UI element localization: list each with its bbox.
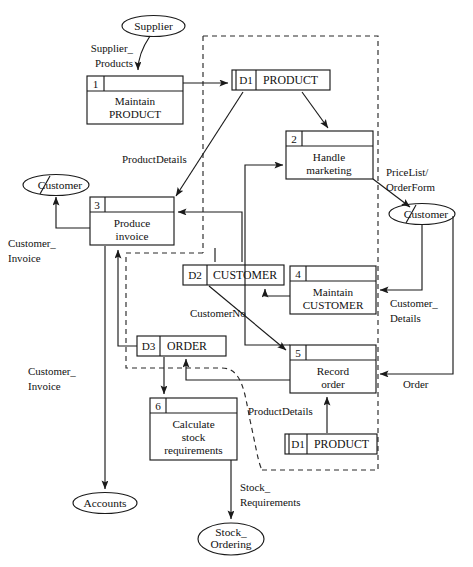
entity-accounts-label: Accounts: [83, 497, 127, 509]
datastore-d1-top-ref: D1: [239, 74, 253, 86]
dfd-svg: Supplier Customer Customer Accounts Stoc…: [0, 0, 473, 567]
dfd-canvas: Supplier Customer Customer Accounts Stoc…: [0, 0, 473, 567]
process-6-line2: stock: [182, 431, 206, 443]
arrow-customer-details: [380, 225, 422, 290]
label-stock-requirements-line2: Requirements: [240, 496, 301, 508]
arrow-d2-to-produce-invoice: [178, 212, 242, 248]
entity-accounts[interactable]: Accounts: [73, 493, 137, 514]
process-4-line2: CUSTOMER: [303, 299, 364, 311]
label-productdetails-top: ProductDetails: [122, 153, 187, 165]
entity-customer-right[interactable]: Customer: [389, 204, 455, 225]
datastore-d1-bottom-label: PRODUCT: [314, 437, 370, 451]
entity-customer-left[interactable]: Customer: [23, 175, 89, 196]
arrow-productdetails-to-produce-invoice: [176, 92, 243, 196]
label-pricelist-orderform-line2: OrderForm: [386, 181, 436, 193]
process-4-line1: Maintain: [313, 286, 354, 298]
arrow-order: [380, 216, 453, 374]
process-5-line1: Record: [317, 365, 350, 377]
datastore-d1-bottom-ref: D1: [291, 438, 305, 450]
entity-customer-left-label: Customer: [38, 179, 83, 191]
label-pricelist-orderform-line1: PriceList/: [386, 166, 429, 178]
process-6-line3: requirements: [164, 444, 222, 456]
label-customer-invoice-bottom-line1: Customer_: [28, 365, 76, 377]
arrow-record-order-to-handle-marketing: [245, 165, 290, 345]
process-6-line1: Calculate: [172, 418, 214, 430]
process-5[interactable]: 5 Record order: [290, 345, 376, 393]
process-3-line1: Produce: [114, 217, 151, 229]
entity-customer-right-label: Customer: [404, 208, 449, 220]
process-4[interactable]: 4 Maintain CUSTOMER: [290, 266, 376, 314]
entity-stock-ordering[interactable]: Stock_ Ordering: [198, 523, 264, 555]
arrow-d3-to-produce-invoice: [118, 250, 137, 346]
entity-stock-ordering-label-line2: Ordering: [210, 538, 251, 550]
process-6-number: 6: [155, 400, 161, 412]
label-customer-details-line2: Details: [390, 312, 421, 324]
label-customer-invoice-top-line2: Invoice: [8, 252, 41, 264]
datastore-d3-label: ORDER: [167, 339, 207, 353]
process-3-line2: invoice: [116, 230, 149, 242]
arrow-supplier-products: [138, 36, 150, 70]
label-supplier-products-line1: Supplier_: [91, 42, 134, 54]
datastore-d2-ref: D2: [188, 269, 202, 281]
process-5-line2: order: [321, 378, 345, 390]
entity-supplier-label: Supplier: [134, 20, 173, 32]
datastore-d1-bottom[interactable]: D1 PRODUCT: [285, 434, 377, 454]
datastore-d1-top-label: PRODUCT: [263, 73, 319, 87]
process-2-line2: marketing: [306, 164, 352, 176]
label-order: Order: [403, 378, 429, 390]
entity-stock-ordering-label-line1: Stock_: [215, 526, 247, 538]
process-1-line2: PRODUCT: [109, 108, 161, 120]
label-stock-requirements-line1: Stock_: [240, 481, 271, 493]
datastore-d3[interactable]: D3 ORDER: [137, 336, 226, 356]
label-customer-details-line1: Customer_: [390, 297, 438, 309]
arrow-customer-invoice-top: [56, 197, 90, 228]
label-customerno: CustomerNo: [190, 307, 246, 319]
process-3-number: 3: [94, 199, 100, 211]
arrow-d1-to-handle-marketing: [302, 92, 328, 128]
datastore-d3-ref: D3: [142, 340, 156, 352]
label-productdetails-bottom: ProductDetails: [248, 405, 313, 417]
datastore-d1-top[interactable]: D1 PRODUCT: [232, 70, 330, 90]
label-customer-invoice-top-line1: Customer_: [8, 237, 56, 249]
process-1-line1: Maintain: [115, 95, 156, 107]
entity-supplier[interactable]: Supplier: [122, 16, 185, 37]
process-1[interactable]: 1 Maintain PRODUCT: [87, 76, 183, 124]
process-5-number: 5: [295, 347, 301, 359]
process-3[interactable]: 3 Produce invoice: [90, 197, 174, 245]
process-1-number: 1: [93, 78, 99, 90]
process-4-number: 4: [295, 268, 301, 280]
datastore-d2[interactable]: D2 CUSTOMER: [183, 265, 284, 285]
process-2-number: 2: [291, 133, 297, 145]
label-supplier-products-line2: Products: [95, 57, 133, 69]
process-2-line1: Handle: [313, 151, 345, 163]
process-6[interactable]: 6 Calculate stock requirements: [150, 398, 237, 460]
label-customer-invoice-bottom-line2: Invoice: [28, 380, 61, 392]
process-2[interactable]: 2 Handle marketing: [286, 131, 373, 179]
arrow-maintain-customer-to-d2: [265, 289, 290, 296]
